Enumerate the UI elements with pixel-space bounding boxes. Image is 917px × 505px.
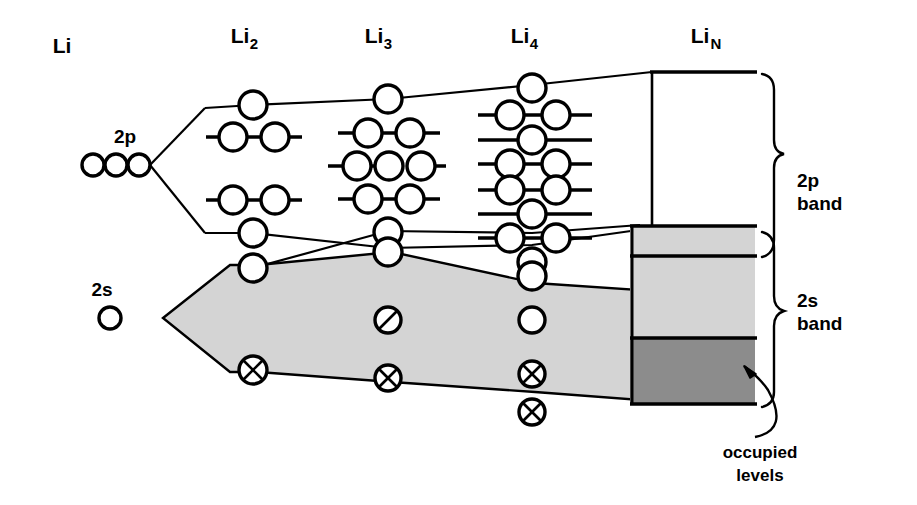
s-band-label-line2: band: [797, 313, 842, 334]
li4-level-p10: [496, 224, 524, 252]
p-band-label-line1: 2p: [797, 170, 819, 191]
li2-level-s-antibonding: [239, 254, 267, 282]
li4-level-p5: [496, 150, 524, 178]
li4-level-p8: [542, 176, 570, 204]
li3-level-p5: [375, 152, 403, 180]
s-orbital-label: 2s: [91, 279, 112, 300]
p-orbital-3: [128, 154, 150, 176]
li4-level-p6: [542, 150, 570, 178]
column-label-liN: Li: [691, 24, 710, 47]
li3-level-p1: [374, 85, 402, 113]
column-sub-li4: 4: [530, 35, 539, 52]
li4-level-p4: [518, 126, 546, 154]
p-band-box: [650, 72, 755, 227]
li4-level-p9: [518, 200, 546, 228]
p-orbital-2: [105, 154, 127, 176]
li2-level-p4: [219, 186, 247, 214]
column-sub-liN: N: [711, 35, 722, 52]
li3-level-s-antibonding: [374, 238, 402, 266]
li2-level-p3: [261, 123, 289, 151]
li2-level-p6: [239, 219, 267, 247]
s-band-label-line1: 2s: [797, 290, 818, 311]
occupied-levels-line2: levels: [736, 466, 783, 485]
occupied-levels-line1: occupied: [723, 443, 798, 462]
energy-band-diagram: Li Li 2 Li 3 Li 4 Li N 2p 2s: [0, 0, 917, 505]
canvas-background: [0, 0, 917, 505]
s-band-occupied-region: [630, 338, 755, 404]
li3-level-p8: [396, 185, 424, 213]
li2-level-p2: [219, 123, 247, 151]
s-band-empty-region: [630, 226, 755, 338]
column-sub-li3: 3: [384, 35, 392, 52]
li4-level-p11: [542, 224, 570, 252]
li3-level-p7: [354, 185, 382, 213]
s-orbital-1: [99, 307, 121, 329]
column-label-li2: Li: [231, 24, 250, 47]
li3-level-p3: [396, 119, 424, 147]
li4-level-p7: [496, 176, 524, 204]
li4-level-s-nonbonding: [519, 307, 545, 333]
li4-level-p1: [518, 74, 546, 102]
li4-level-s-antibonding-2: [518, 262, 546, 290]
column-label-li4: Li: [511, 24, 530, 47]
p-orbital-label: 2p: [114, 126, 136, 147]
p-orbital-1: [82, 154, 104, 176]
p-band-label-line2: band: [797, 193, 842, 214]
column-label-li1: Li: [53, 34, 72, 57]
li2-level-p5: [261, 186, 289, 214]
column-label-li3: Li: [365, 24, 384, 47]
li4-level-p2: [496, 101, 524, 129]
column-sub-li2: 2: [250, 35, 258, 52]
li4-level-p3: [542, 101, 570, 129]
li3-level-p6: [407, 152, 435, 180]
li3-level-p2: [354, 119, 382, 147]
li2-level-p1: [239, 91, 267, 119]
li3-level-p4: [343, 152, 371, 180]
